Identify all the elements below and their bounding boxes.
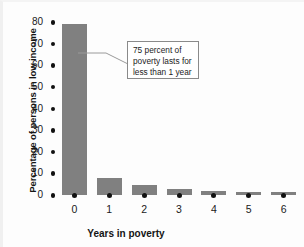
y-tick-label: 80 (32, 16, 43, 28)
bar-0 (62, 24, 87, 195)
y-tick-80: 80 (0, 16, 57, 28)
y-tick-0: 0 (0, 189, 57, 201)
y-tick-dot (51, 193, 56, 198)
x-tick-label: 2 (133, 203, 155, 215)
y-tick-dot (51, 171, 56, 176)
y-tick-label: 40 (32, 103, 43, 115)
y-tick-60: 60 (0, 59, 57, 71)
x-tick-dot (72, 193, 77, 198)
callout-line-2: poverty lasts for (133, 56, 194, 67)
callout-line-3: less than 1 year (133, 67, 194, 78)
y-tick-dot (51, 128, 56, 133)
y-tick-label: 30 (32, 124, 43, 136)
y-tick-label: 10 (32, 167, 43, 179)
y-tick-label: 50 (32, 81, 43, 93)
y-tick-label: 60 (32, 59, 43, 71)
poverty-duration-bar-chart: Percentage of persons in low income 0102… (0, 0, 304, 247)
y-tick-50: 50 (0, 81, 57, 93)
x-tick-dot (177, 193, 182, 198)
y-tick-dot (51, 63, 56, 68)
x-tick-dot (107, 193, 112, 198)
y-tick-dot (51, 150, 56, 155)
x-tick-dot (246, 193, 251, 198)
x-tick-label: 6 (273, 203, 295, 215)
y-tick-label: 0 (37, 189, 43, 201)
y-tick-label: 70 (32, 38, 43, 50)
x-tick-label: 4 (203, 203, 225, 215)
y-tick-30: 30 (0, 124, 57, 136)
y-tick-dot (51, 20, 56, 25)
x-tick-dot (211, 193, 216, 198)
y-tick-40: 40 (0, 103, 57, 115)
y-tick-label: 20 (32, 146, 43, 158)
y-tick-10: 10 (0, 167, 57, 179)
y-tick-dot (51, 107, 56, 112)
y-tick-20: 20 (0, 146, 57, 158)
x-axis-title: Years in poverty (46, 228, 206, 239)
x-tick-label: 1 (98, 203, 120, 215)
y-tick-70: 70 (0, 38, 57, 50)
callout-line-1: 75 percent of (133, 45, 194, 56)
y-tick-dot (51, 42, 56, 47)
x-tick-label: 5 (238, 203, 260, 215)
x-tick-dot (142, 193, 147, 198)
x-tick-dot (281, 193, 286, 198)
x-tick-label: 3 (168, 203, 190, 215)
callout-box: 75 percent of poverty lasts for less tha… (127, 41, 199, 79)
x-tick-label: 0 (63, 203, 85, 215)
y-tick-dot (51, 85, 56, 90)
